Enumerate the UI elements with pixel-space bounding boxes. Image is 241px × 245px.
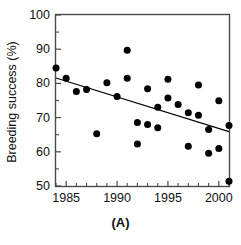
data-point xyxy=(175,101,182,108)
data-points xyxy=(53,47,233,185)
data-point xyxy=(205,150,212,157)
data-point xyxy=(134,119,141,126)
data-point xyxy=(215,145,222,152)
data-point xyxy=(103,79,110,86)
data-point xyxy=(215,97,222,104)
data-point xyxy=(185,143,192,150)
regression-line xyxy=(56,78,229,132)
data-point xyxy=(185,109,192,116)
plot-frame xyxy=(56,15,230,187)
data-point xyxy=(124,75,131,82)
data-point xyxy=(195,82,202,89)
x-axis-ticks xyxy=(56,181,229,186)
data-point xyxy=(154,124,161,131)
scatter-plot-canvas xyxy=(0,0,241,245)
data-point xyxy=(205,126,212,133)
data-point xyxy=(195,112,202,119)
data-point xyxy=(144,85,151,92)
data-point xyxy=(164,95,171,102)
data-point xyxy=(63,75,70,82)
data-point xyxy=(134,140,141,147)
data-point xyxy=(226,178,233,185)
figure-caption: (A) xyxy=(0,215,241,230)
data-point xyxy=(124,47,131,54)
figure-panel: Breeding success (%) 5060708090100 19851… xyxy=(0,0,241,245)
data-point xyxy=(73,88,80,95)
data-point xyxy=(53,65,60,72)
data-point xyxy=(114,93,121,100)
data-point xyxy=(154,104,161,111)
trend-line xyxy=(56,78,229,132)
data-point xyxy=(83,86,90,93)
data-point xyxy=(164,76,171,83)
data-point xyxy=(93,130,100,137)
data-point xyxy=(144,121,151,128)
data-point xyxy=(226,122,233,129)
y-axis-ticks xyxy=(56,15,61,186)
axes-frame xyxy=(56,15,230,187)
